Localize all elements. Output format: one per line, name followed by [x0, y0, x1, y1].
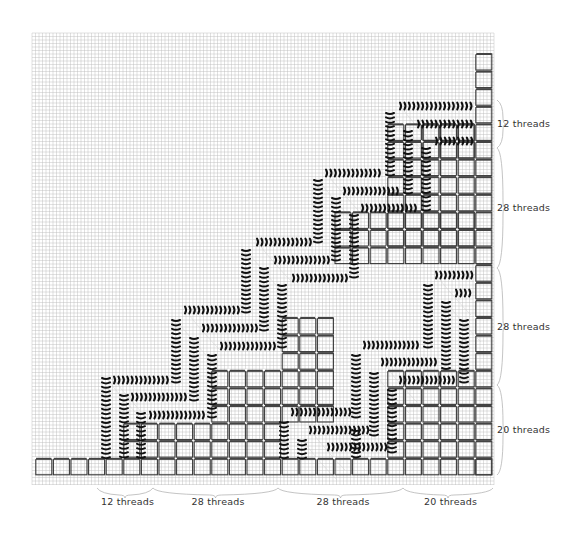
- bottom-row: [34, 457, 492, 475]
- bottom-label-2: 28 threads: [317, 496, 370, 507]
- warp-float: [422, 148, 430, 211]
- warp-float: [424, 285, 432, 348]
- diagram-canvas: [0, 0, 571, 535]
- weft-float: [400, 103, 472, 110]
- cell: [229, 388, 245, 404]
- cell: [476, 54, 492, 70]
- cell: [265, 371, 281, 387]
- cell: [317, 353, 333, 369]
- cell: [265, 441, 281, 457]
- cell: [282, 353, 298, 369]
- cell: [317, 388, 333, 404]
- weft-float: [400, 377, 454, 384]
- cell: [317, 336, 333, 352]
- warp-float: [404, 131, 412, 194]
- warp-float: [278, 285, 286, 348]
- weft-float: [221, 343, 275, 350]
- cell: [265, 406, 281, 422]
- cell: [476, 177, 492, 193]
- cell: [476, 406, 492, 422]
- block-a: [122, 422, 210, 458]
- bottom-label-0: 12 threads: [101, 496, 154, 507]
- cell: [265, 424, 281, 440]
- warp-float: [332, 198, 340, 261]
- cell: [476, 353, 492, 369]
- cell: [476, 300, 492, 316]
- cell: [247, 371, 263, 387]
- warp-float: [386, 113, 394, 176]
- warp-float: [190, 338, 198, 401]
- cell: [229, 441, 245, 457]
- weave-diagram: 12 threads28 threads28 threads20 threads…: [0, 0, 571, 535]
- cell: [317, 318, 333, 334]
- right-label-3: 20 threads: [497, 424, 550, 435]
- cell: [300, 353, 316, 369]
- warp-float: [120, 395, 128, 458]
- cell: [229, 406, 245, 422]
- cell: [247, 441, 263, 457]
- warp-float: [314, 180, 322, 243]
- right-label-2: 28 threads: [497, 321, 550, 332]
- cell: [300, 336, 316, 352]
- cell: [317, 371, 333, 387]
- cell: [476, 336, 492, 352]
- right-label-0: 12 threads: [497, 118, 550, 129]
- cell: [476, 441, 492, 457]
- cell: [265, 388, 281, 404]
- cell: [476, 371, 492, 387]
- warp-float: [370, 373, 378, 436]
- warp-float: [352, 430, 360, 457]
- cell: [247, 388, 263, 404]
- warp-float: [172, 320, 180, 383]
- cell: [282, 388, 298, 404]
- weft-float: [436, 272, 472, 279]
- warp-float: [260, 268, 268, 331]
- weft-float: [114, 377, 168, 384]
- cell: [476, 388, 492, 404]
- warp-float: [352, 355, 360, 418]
- warp-float: [208, 355, 216, 418]
- cell: [282, 371, 298, 387]
- bottom-label-1: 28 threads: [192, 496, 245, 507]
- cell: [247, 424, 263, 440]
- block-c: [280, 316, 333, 422]
- warp-float: [350, 215, 358, 278]
- cell: [476, 318, 492, 334]
- warp-float: [442, 302, 450, 369]
- cell: [476, 195, 492, 211]
- cell: [476, 424, 492, 440]
- warp-float: [388, 390, 396, 453]
- right-label-1: 28 threads: [497, 202, 550, 213]
- cell: [476, 72, 492, 88]
- cell: [300, 371, 316, 387]
- weft-float: [275, 257, 329, 264]
- cell: [229, 424, 245, 440]
- warp-float: [460, 320, 468, 383]
- warp-float: [242, 250, 250, 313]
- cell: [247, 406, 263, 422]
- cell: [229, 371, 245, 387]
- cell: [300, 388, 316, 404]
- cell: [300, 318, 316, 334]
- bottom-label-3: 20 threads: [424, 496, 477, 507]
